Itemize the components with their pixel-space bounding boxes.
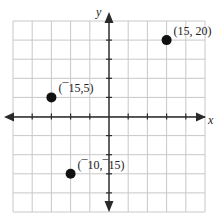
data-point <box>162 35 172 45</box>
data-point-label: (15, 20) <box>174 24 212 38</box>
data-point-label: (¯15,5) <box>58 81 93 95</box>
coordinate-plane: x y (15, 20)(¯15,5)(¯10,¯15) <box>0 0 219 217</box>
data-point <box>46 92 56 102</box>
data-points: (15, 20)(¯15,5)(¯10,¯15) <box>46 24 211 179</box>
y-axis-label: y <box>95 5 102 19</box>
data-point-label: (¯10,¯15) <box>78 158 125 172</box>
y-axis-down-arrow-icon <box>105 201 114 212</box>
x-axis-label: x <box>207 113 214 127</box>
y-axis-up-arrow-icon <box>105 12 114 23</box>
x-axis-left-arrow-icon <box>4 113 14 122</box>
data-point <box>66 169 76 179</box>
